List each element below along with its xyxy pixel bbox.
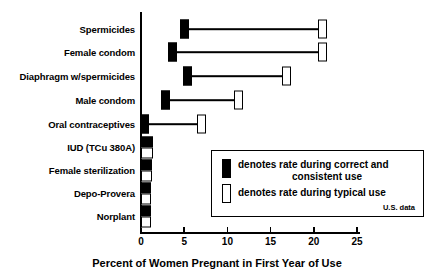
marker-correct-use [141,160,152,171]
connector-line [192,75,282,77]
marker-typical-use [234,91,243,110]
x-tick-label-0: 0 [138,236,144,247]
legend-data-source-note: U.S. data [383,203,415,212]
marker-correct-use [168,43,177,62]
marker-typical-use [318,20,327,39]
marker-typical-use [141,171,152,182]
x-tick-10 [227,227,229,232]
marker-correct-use [183,67,192,86]
marker-correct-use [140,115,149,134]
x-axis-title: Percent of Women Pregnant in First Year … [0,257,434,269]
connector-line [177,51,318,53]
chart-container: Spermicides Female condom Diaphragm w/sp… [0,0,434,278]
x-tick-label-25: 25 [351,236,362,247]
marker-correct-use [141,137,153,148]
legend-swatch-solid [222,159,231,178]
legend-label-correct-use: denotes rate during correct and consiste… [238,159,416,182]
legend-label-correct-use-line2: consistent use [238,171,416,183]
x-tick-label-15: 15 [265,236,276,247]
x-axis-line [140,232,360,234]
marker-correct-use [141,183,151,194]
x-tick-label-20: 20 [308,236,319,247]
plot-area [0,0,434,278]
x-tick-5 [183,227,185,232]
marker-typical-use [197,115,206,134]
connector-line [169,99,234,101]
marker-typical-use [141,217,151,228]
x-tick-0 [140,227,142,232]
marker-typical-use [282,67,291,86]
marker-correct-use [180,20,189,39]
marker-typical-use [318,43,327,62]
x-tick-label-5: 5 [181,236,187,247]
x-tick-label-10: 10 [222,236,233,247]
x-tick-25 [356,227,358,232]
x-tick-15 [270,227,272,232]
marker-typical-use [141,148,153,159]
marker-typical-use [141,194,151,205]
connector-line [188,28,318,30]
marker-correct-use [141,206,151,217]
x-tick-20 [313,227,315,232]
connector-line [148,123,197,125]
legend-label-typical-use: denotes rate during typical use [238,187,416,199]
legend-label-correct-use-line1: denotes rate during correct and [238,159,389,170]
legend-swatch-open [222,184,231,203]
legend-box: denotes rate during correct and consiste… [211,150,424,217]
marker-correct-use [161,91,170,110]
